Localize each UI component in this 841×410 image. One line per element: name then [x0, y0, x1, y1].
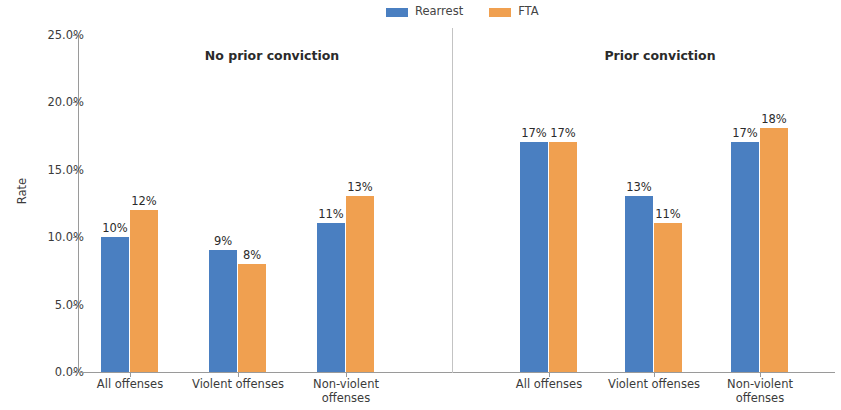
x-label-line1: Non-violent: [705, 378, 815, 392]
bar-right-nonviolent-rearrest[interactable]: 17%: [731, 142, 759, 372]
bar-value-right-all-rearrest: 17%: [521, 128, 547, 140]
bar-right-violent-rearrest[interactable]: 13%: [625, 196, 653, 372]
x-label-line1: All offenses: [75, 378, 185, 392]
x-label-line1: All offenses: [494, 378, 604, 392]
bar-value-left-nonviolent-fta: 13%: [347, 182, 373, 194]
bar-right-all-rearrest[interactable]: 17%: [520, 142, 548, 372]
x-label-left-nonviolent-offenses: Non-violent offenses: [291, 378, 401, 405]
legend-swatch-fta: [489, 8, 511, 17]
bar-value-right-violent-fta: 11%: [655, 209, 681, 221]
chart-legend: Rearrest FTA: [386, 4, 539, 20]
bar-value-left-nonviolent-rearrest: 11%: [318, 209, 344, 221]
bar-value-left-violent-rearrest: 9%: [214, 236, 232, 248]
panel-divider: [452, 28, 453, 373]
bar-value-left-violent-fta: 8%: [243, 250, 261, 262]
x-label-right-nonviolent-offenses: Non-violent offenses: [705, 378, 815, 405]
bar-left-violent-rearrest[interactable]: 9%: [209, 250, 237, 372]
bar-left-all-fta[interactable]: 12%: [130, 210, 158, 372]
bar-value-right-nonviolent-fta: 18%: [761, 114, 787, 126]
x-label-line1: Violent offenses: [183, 378, 293, 392]
x-label-line1: Violent offenses: [599, 378, 709, 392]
bar-value-right-violent-rearrest: 13%: [626, 182, 652, 194]
x-label-line1: Non-violent: [291, 378, 401, 392]
x-label-right-violent-offenses: Violent offenses: [599, 378, 709, 392]
x-label-right-all-offenses: All offenses: [494, 378, 604, 392]
y-tick-mark-25: [73, 35, 78, 36]
bar-value-right-nonviolent-rearrest: 17%: [732, 128, 758, 140]
bar-value-left-all-fta: 12%: [131, 196, 157, 208]
bar-left-nonviolent-rearrest[interactable]: 11%: [317, 223, 345, 372]
x-label-left-all-offenses: All offenses: [75, 378, 185, 392]
y-axis-line: [78, 35, 79, 373]
bar-chart-figure: Rearrest FTA Rate 25.0% 20.0% 15.0% 10.0…: [0, 0, 841, 410]
bar-right-nonviolent-fta[interactable]: 18%: [760, 128, 788, 372]
legend-label-rearrest: Rearrest: [415, 6, 463, 18]
bar-right-all-fta[interactable]: 17%: [549, 142, 577, 372]
y-tick-mark-5: [73, 305, 78, 306]
panel-title-prior-conviction: Prior conviction: [500, 48, 820, 63]
y-tick-mark-15: [73, 170, 78, 171]
bar-value-right-all-fta: 17%: [550, 128, 576, 140]
x-label-line2: offenses: [705, 392, 815, 406]
legend-entry-rearrest[interactable]: Rearrest: [386, 6, 463, 18]
y-tick-mark-10: [73, 237, 78, 238]
y-tick-mark-20: [73, 102, 78, 103]
legend-label-fta: FTA: [518, 6, 538, 18]
panel-title-no-prior-conviction: No prior conviction: [112, 48, 432, 63]
bar-left-all-rearrest[interactable]: 10%: [101, 237, 129, 372]
x-label-left-violent-offenses: Violent offenses: [183, 378, 293, 392]
x-label-line2: offenses: [291, 392, 401, 406]
legend-swatch-rearrest: [386, 8, 408, 17]
bar-right-violent-fta[interactable]: 11%: [654, 223, 682, 372]
bar-left-nonviolent-fta[interactable]: 13%: [346, 196, 374, 372]
bar-value-left-all-rearrest: 10%: [102, 223, 128, 235]
x-axis-baseline: [78, 372, 835, 373]
legend-entry-fta[interactable]: FTA: [489, 6, 538, 18]
bar-left-violent-fta[interactable]: 8%: [238, 264, 266, 372]
